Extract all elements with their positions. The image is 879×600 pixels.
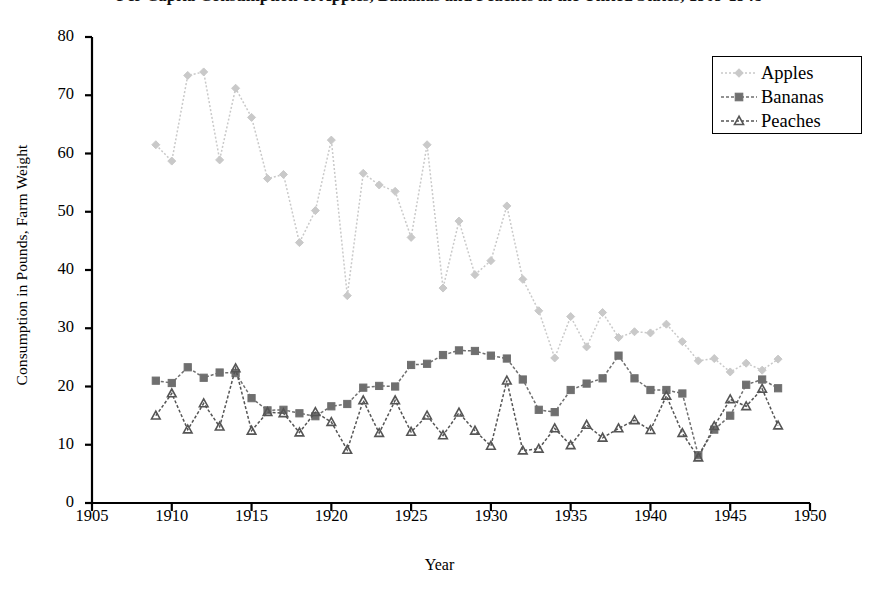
legend-label: Apples (759, 64, 813, 82)
legend-swatch-apples-icon (719, 64, 759, 82)
legend-item-peaches[interactable]: Peaches (719, 108, 859, 134)
legend-swatch-peaches-icon (719, 112, 759, 130)
legend-label: Bananas (759, 88, 824, 106)
chart-container: Per Capita Consumption of Apples, Banana… (0, 0, 879, 600)
legend-item-bananas[interactable]: Bananas (719, 84, 859, 110)
chart-legend: ApplesBananasPeaches (712, 56, 862, 134)
legend-item-apples[interactable]: Apples (719, 60, 859, 86)
series-apples (152, 68, 782, 376)
series-bananas (152, 347, 781, 459)
legend-swatch-bananas-icon (719, 88, 759, 106)
legend-label: Peaches (759, 112, 821, 130)
